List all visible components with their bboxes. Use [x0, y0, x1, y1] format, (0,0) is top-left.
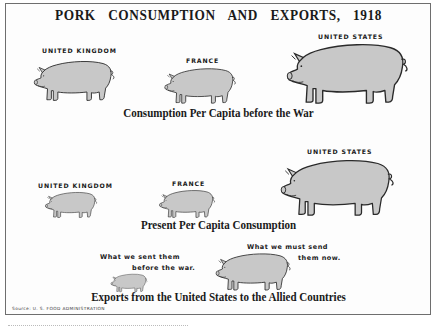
- pig-icon-present-france: [158, 188, 216, 220]
- heading-present-consumption: Present Per Capita Consumption: [26, 218, 411, 233]
- chart-title: PORK CONSUMPTION AND EXPORTS, 1918: [11, 8, 426, 24]
- label-prewar-uk: UNITED KINGDOM: [42, 47, 117, 54]
- note-now-line2: them now.: [298, 254, 341, 262]
- label-prewar-us: UNITED STATES: [318, 33, 383, 40]
- pig-icon-prewar-us: [282, 40, 412, 108]
- pig-icon-exports-now: [214, 250, 292, 294]
- pig-icon-present-uk: [44, 190, 98, 220]
- label-present-us: UNITED STATES: [307, 148, 372, 155]
- pig-icon-prewar-uk: [32, 58, 116, 104]
- note-before-war-line1: What we sent them: [100, 253, 180, 261]
- label-present-uk: UNITED KINGDOM: [38, 182, 113, 189]
- label-prewar-france: FRANCE: [186, 57, 219, 64]
- note-before-war-line2: before the war.: [132, 264, 195, 272]
- cropped-caption-remnant: [8, 325, 188, 330]
- heading-prewar-consumption: Consumption Per Capita before the War: [26, 106, 411, 121]
- label-present-france: FRANCE: [172, 180, 205, 187]
- heading-exports: Exports from the United States to the Al…: [26, 290, 411, 305]
- source-note: Source: U. S. FOOD ADMINISTRATION: [12, 306, 105, 311]
- pig-icon-present-us: [278, 156, 396, 220]
- pig-icon-prewar-france: [162, 66, 238, 106]
